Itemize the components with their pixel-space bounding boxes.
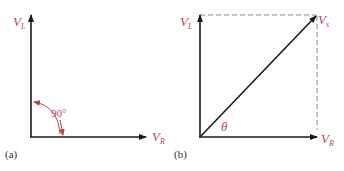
angle-label-a: 90° <box>51 107 66 119</box>
vr-label-b: VR <box>321 131 334 148</box>
phasor-diagrams: VL VR 90° (a) VL Vs VR θ (b) <box>0 0 344 171</box>
panel-b: VL Vs VR θ (b) <box>174 12 334 161</box>
caption-b: (b) <box>174 148 187 161</box>
angle-arc-tail-a <box>60 120 63 135</box>
vs-label-b: Vs <box>318 12 329 29</box>
vs-phasor-b <box>200 16 316 137</box>
caption-a: (a) <box>5 148 18 161</box>
theta-label-b: θ <box>221 119 228 134</box>
panel-a: VL VR 90° (a) <box>5 14 165 161</box>
vr-label-a: VR <box>152 129 165 146</box>
vl-label-b: VL <box>180 14 193 31</box>
vl-label-a: VL <box>13 14 26 31</box>
